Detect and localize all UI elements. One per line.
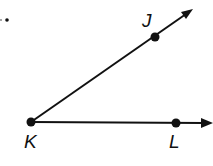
angle-diagram: J K L xyxy=(0,0,213,166)
label-k: K xyxy=(24,131,38,152)
label-j: J xyxy=(141,10,152,31)
problem-marker-dot xyxy=(5,18,9,22)
point-j xyxy=(151,33,160,42)
label-l: L xyxy=(169,131,180,152)
point-l xyxy=(172,119,181,128)
arrowhead-kl-icon xyxy=(201,118,213,128)
arrowhead-kj-icon xyxy=(181,9,193,19)
ray-kj xyxy=(31,14,186,122)
problem-marker-dot-faint xyxy=(0,19,2,21)
vertex-point-k xyxy=(27,118,36,127)
